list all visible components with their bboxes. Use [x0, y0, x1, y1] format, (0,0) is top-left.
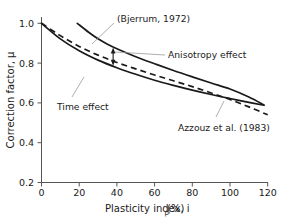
- y-tick-label-0.6: 0.6: [19, 97, 34, 108]
- anisotropy-effect-arrow: [111, 47, 116, 65]
- y-tick-label-0.4: 0.4: [19, 137, 34, 148]
- x-tick-label-80: 80: [186, 187, 198, 198]
- x-tick-label-120: 120: [259, 187, 277, 198]
- x-tick-label-20: 20: [73, 187, 85, 198]
- y-tick-label-1.0: 1.0: [19, 18, 34, 29]
- y-tick-labels: 1.0 0.8 0.6 0.4 0.2: [19, 18, 34, 188]
- leader-azzouz: [216, 101, 224, 117]
- annotation-anisotropy-effect: Anisotropy effect: [168, 49, 247, 60]
- y-tick-label-0.8: 0.8: [19, 58, 34, 69]
- annotation-time-effect: Time effect: [56, 101, 109, 112]
- y-tick-label-0.2: 0.2: [19, 177, 34, 188]
- x-axis-title: Plasticity index, i p (%): [105, 203, 190, 217]
- x-tick-label-100: 100: [221, 187, 239, 198]
- y-tick-marks: [38, 23, 42, 182]
- annotation-azzouz: Azzouz et al. (1983): [178, 122, 270, 133]
- correction-factor-plot: 1.0 0.8 0.6 0.4 0.2 0 20 40 60 80 100 12…: [0, 0, 284, 217]
- x-tick-label-0: 0: [38, 187, 44, 198]
- x-tick-labels: 0 20 40 60 80 100 120: [38, 187, 276, 198]
- leader-time-effect: [72, 77, 84, 97]
- leader-anisotropy: [115, 52, 165, 55]
- x-tick-label-40: 40: [111, 187, 123, 198]
- annotation-bjerrum: (Bjerrum, 1972): [117, 13, 190, 24]
- chart-figure: 1.0 0.8 0.6 0.4 0.2 0 20 40 60 80 100 12…: [0, 0, 284, 217]
- x-axis-title-unit: (%): [167, 203, 184, 214]
- x-tick-label-60: 60: [149, 187, 161, 198]
- y-axis-title: Correction factor, μ: [5, 51, 16, 149]
